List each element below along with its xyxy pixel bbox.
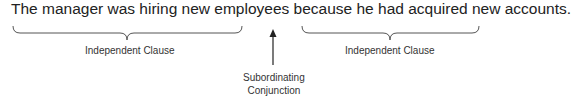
- conjunction-label: Subordinating Conjunction: [243, 71, 305, 97]
- conjunction-label-line2: Conjunction: [243, 84, 305, 97]
- conjunction-label-line1: Subordinating: [243, 71, 305, 84]
- left-brace-icon: [13, 26, 242, 40]
- left-clause-label: Independent Clause: [85, 44, 175, 57]
- right-brace-icon: [302, 26, 479, 40]
- right-clause-label: Independent Clause: [345, 44, 435, 57]
- up-arrow-icon: [270, 29, 277, 65]
